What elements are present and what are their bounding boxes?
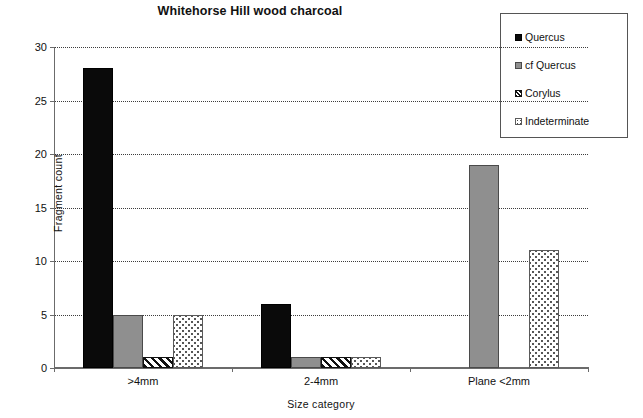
gridline — [54, 47, 588, 48]
bar-cf-quercus-0[interactable] — [113, 315, 143, 369]
x-tick-label: Plane <2mm — [468, 375, 530, 387]
y-tick-mark — [50, 101, 55, 102]
bar-indeterminate-1[interactable] — [351, 357, 381, 368]
bar-cf-quercus-1[interactable] — [291, 357, 321, 368]
bar-indeterminate-2[interactable] — [529, 250, 559, 368]
x-tick-label: 2-4mm — [304, 375, 338, 387]
bar-indeterminate-0[interactable] — [173, 315, 203, 369]
x-tick-mark — [588, 367, 589, 372]
legend-label-quercus: Quercus — [525, 31, 565, 43]
y-tick-label: 25 — [35, 95, 47, 107]
y-tick-mark — [50, 208, 55, 209]
bar-corylus-0[interactable] — [143, 357, 173, 368]
y-tick-mark — [50, 154, 55, 155]
y-axis-title: Fragment count — [52, 123, 64, 263]
y-tick-label: 5 — [41, 309, 47, 321]
legend-swatch-quercus — [515, 34, 522, 41]
chart-title: Whitehorse Hill wood charcoal — [0, 4, 500, 18]
y-tick-label: 30 — [35, 41, 47, 53]
y-tick-label: 0 — [41, 362, 47, 374]
bar-cf-quercus-2[interactable] — [469, 165, 499, 368]
x-tick-mark — [54, 367, 55, 372]
gridline — [54, 154, 588, 155]
y-tick-mark — [50, 315, 55, 316]
y-tick-mark — [50, 47, 55, 48]
bar-quercus-1[interactable] — [261, 304, 291, 368]
gridline — [54, 208, 588, 209]
y-tick-mark — [50, 261, 55, 262]
y-tick-label: 20 — [35, 148, 47, 160]
y-tick-label: 15 — [35, 202, 47, 214]
bar-corylus-1[interactable] — [321, 357, 351, 368]
x-tick-mark — [410, 367, 411, 372]
plot-area: Fragment count 051015202530 — [54, 47, 588, 368]
x-tick-mark — [232, 367, 233, 372]
x-axis-title: Size category — [54, 398, 588, 410]
gridline — [54, 261, 588, 262]
bar-chart: Whitehorse Hill wood charcoal Quercus cf… — [0, 0, 643, 418]
gridline — [54, 101, 588, 102]
x-tick-label: >4mm — [128, 375, 159, 387]
y-tick-label: 10 — [35, 255, 47, 267]
bar-quercus-0[interactable] — [83, 68, 113, 368]
